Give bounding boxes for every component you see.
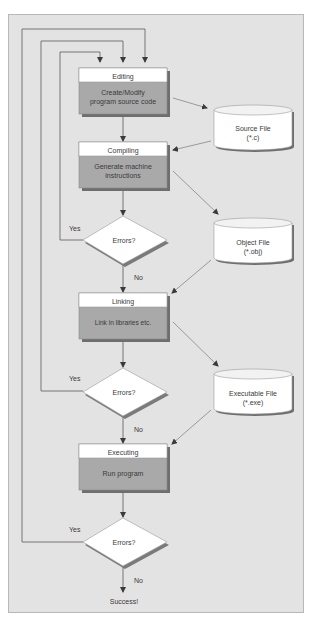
process-title: Editing xyxy=(112,73,134,81)
edge-object-linking xyxy=(172,260,211,293)
yes-label: Yes xyxy=(69,526,81,533)
process-body-line: instructions xyxy=(105,172,141,179)
edge-compiling-object xyxy=(173,171,218,214)
process-box-editing: Editing Create/Modify program source cod… xyxy=(79,68,170,117)
process-body-line: Run program xyxy=(103,470,144,478)
decision-errors1: Errors? Yes No xyxy=(69,216,169,281)
decision-label: Errors? xyxy=(113,389,136,396)
process-title: Linking xyxy=(112,298,134,306)
terminal-success: Success! xyxy=(110,598,138,605)
file-label: Object File xyxy=(236,239,270,247)
file-extension: (*.obj) xyxy=(244,248,263,256)
process-body-line: Generate machine xyxy=(94,163,152,170)
process-title: Executing xyxy=(108,449,139,457)
file-extension: (*.c) xyxy=(247,134,260,142)
edge-editing-source xyxy=(173,98,207,108)
process-box-compiling: Compiling Generate machine instructions xyxy=(79,142,170,191)
edge-executable-executing xyxy=(172,410,211,444)
decision-errors2: Errors? Yes No xyxy=(69,368,169,433)
file-cylinder-object: Object File (*.obj) xyxy=(214,218,294,265)
process-body-line: Link in libraries etc. xyxy=(95,319,152,326)
process-body-line: program source code xyxy=(90,98,156,106)
file-cylinder-source: Source File (*.c) xyxy=(214,105,294,152)
decision-label: Errors? xyxy=(113,539,136,546)
process-box-executing: Executing Run program xyxy=(79,444,170,493)
yes-label: Yes xyxy=(69,375,81,382)
decision-errors3: Errors? Yes No xyxy=(69,518,169,584)
file-extension: (*.exe) xyxy=(243,399,264,407)
no-label: No xyxy=(134,426,143,433)
process-title: Compiling xyxy=(107,147,138,155)
file-label: Source File xyxy=(235,125,271,132)
no-label: No xyxy=(134,274,143,281)
file-label: Executable File xyxy=(229,390,277,397)
process-body-line: Create/Modify xyxy=(101,89,145,97)
file-cylinder-executable: Executable File (*.exe) xyxy=(214,369,294,416)
decision-label: Errors? xyxy=(113,237,136,244)
flowchart: Editing Create/Modify program source cod… xyxy=(0,0,312,620)
no-label: No xyxy=(134,577,143,584)
file-flow-lines xyxy=(172,98,218,444)
yes-label: Yes xyxy=(69,225,81,232)
process-box-linking: Linking Link in libraries etc. xyxy=(79,293,170,342)
edge-source-compiling xyxy=(173,141,211,150)
edge-linking-executable xyxy=(173,322,218,366)
